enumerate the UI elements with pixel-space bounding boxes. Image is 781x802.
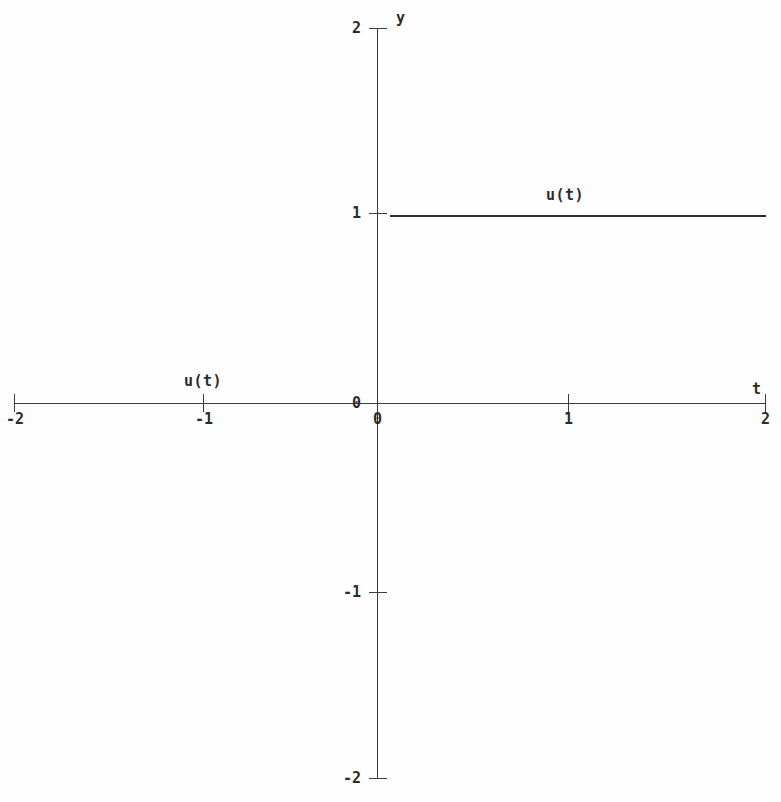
chart-figure: y t 2 1 0 -1 -2 -2 -1 0 1 2 u(t) u(t) <box>0 0 781 802</box>
x-tick-label-2: 2 <box>761 412 770 427</box>
y-tick-label-neg1: -1 <box>343 585 361 600</box>
y-tick-label-2: 2 <box>352 21 361 36</box>
y-axis-label: y <box>396 11 405 26</box>
x-tick-label-neg2: -2 <box>6 412 24 427</box>
plot-canvas <box>0 0 781 802</box>
annotation-ut-upper: u(t) <box>546 188 584 203</box>
x-tick-label-0: 0 <box>373 412 382 427</box>
x-tick-label-1: 1 <box>564 412 573 427</box>
annotation-ut-lower: u(t) <box>184 374 222 389</box>
x-tick-label-neg1: -1 <box>195 412 213 427</box>
x-axis-label: t <box>752 382 761 397</box>
y-tick-label-0: 0 <box>352 396 361 411</box>
y-tick-label-1: 1 <box>352 206 361 221</box>
y-tick-label-neg2: -2 <box>343 771 361 786</box>
